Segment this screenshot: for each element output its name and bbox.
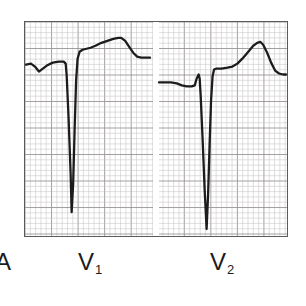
- ecg-trace-v1: [26, 38, 150, 212]
- ecg-paper-frame: [24, 21, 288, 237]
- ecg-trace-v2: [159, 42, 286, 229]
- ecg-trace-layer: [25, 22, 287, 236]
- ecg-figure: A V1 V2: [0, 0, 306, 306]
- lead-label-v2-subscript: 2: [227, 262, 234, 277]
- lead-label-v1-letter: V: [78, 248, 94, 275]
- lead-labels: A V1 V2: [0, 246, 306, 296]
- panel-label-a: A: [0, 250, 11, 274]
- lead-label-v2-letter: V: [210, 248, 226, 275]
- lead-label-v1-subscript: 1: [95, 262, 102, 277]
- lead-label-v2: V2: [210, 250, 233, 274]
- lead-label-v1: V1: [78, 250, 101, 274]
